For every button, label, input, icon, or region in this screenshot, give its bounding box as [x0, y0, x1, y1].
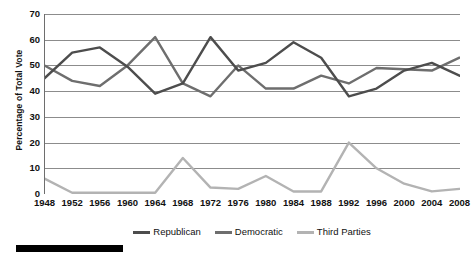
- y-tick-label: 20: [10, 138, 40, 148]
- legend-swatch-democratic: [215, 231, 232, 234]
- legend-swatch-republican: [133, 231, 150, 234]
- bottom-rule: [16, 245, 123, 252]
- legend-entry-democratic: Democratic: [215, 227, 283, 237]
- series-line-third-parties: [45, 143, 460, 193]
- y-tick-label: 40: [10, 86, 40, 96]
- legend-label-republican: Republican: [153, 227, 201, 237]
- gridlines: [44, 15, 460, 195]
- series-lines: [45, 37, 460, 193]
- series-line-republican: [45, 37, 460, 96]
- legend-entry-republican: Republican: [133, 227, 201, 237]
- y-tick-label: 30: [10, 112, 40, 122]
- legend-swatch-third-parties: [297, 231, 314, 234]
- y-tick-label: 50: [10, 60, 40, 70]
- legend-label-democratic: Democratic: [235, 227, 283, 237]
- legend-label-third-parties: Third Parties: [317, 227, 371, 237]
- plot-area: [44, 14, 460, 194]
- chart-legend: Republican Democratic Third Parties: [44, 224, 460, 240]
- y-axis-tick-labels: 010203040506070: [8, 14, 40, 194]
- vote-percentage-line-chart: Percentage of Total Vote 010203040506070…: [0, 0, 472, 258]
- x-axis-tick-labels: 1948195219561960196419681972197619801984…: [44, 198, 460, 214]
- legend-entry-third-parties: Third Parties: [297, 227, 371, 237]
- y-tick-label: 10: [10, 163, 40, 173]
- y-tick-label: 60: [10, 35, 40, 45]
- y-tick-label: 70: [10, 9, 40, 19]
- plot-svg: [44, 14, 460, 194]
- x-tick-label: 2008: [440, 198, 472, 208]
